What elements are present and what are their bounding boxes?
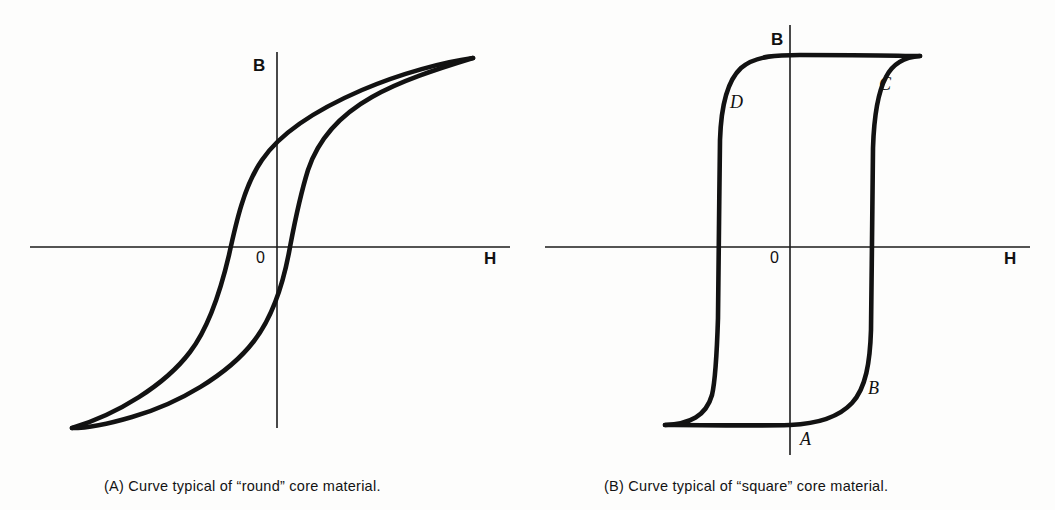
panel-a-origin-label: 0	[256, 250, 265, 266]
panel-a-descending-branch	[72, 58, 473, 428]
panel-a-y-axis-label: B	[253, 57, 265, 74]
panel-b-origin-label: 0	[770, 250, 779, 266]
panel-a-x-axis-label: H	[484, 250, 496, 267]
panel-b-lower-branch	[665, 56, 920, 425]
panel-b-point-label-a: A	[800, 430, 811, 448]
panel-a-graphics	[30, 52, 510, 428]
panel-b-y-axis-label: B	[771, 31, 783, 48]
panel-a-caption: (A) Curve typical of “round” core materi…	[104, 478, 381, 495]
figure-canvas	[0, 0, 1055, 510]
panel-b-point-label-c: C	[879, 75, 891, 93]
panel-b-caption: (B) Curve typical of “square” core mater…	[604, 478, 888, 495]
panel-b-point-label-b: B	[868, 379, 879, 397]
hysteresis-figure: B 0 H (A) Curve typical of “round” core …	[0, 0, 1055, 510]
panel-b-graphics	[545, 25, 1030, 455]
panel-a-ascending-branch	[72, 58, 473, 428]
panel-b-point-label-d: D	[730, 93, 743, 111]
panel-b-x-axis-label: H	[1004, 250, 1016, 267]
panel-b-upper-branch	[665, 55, 920, 425]
